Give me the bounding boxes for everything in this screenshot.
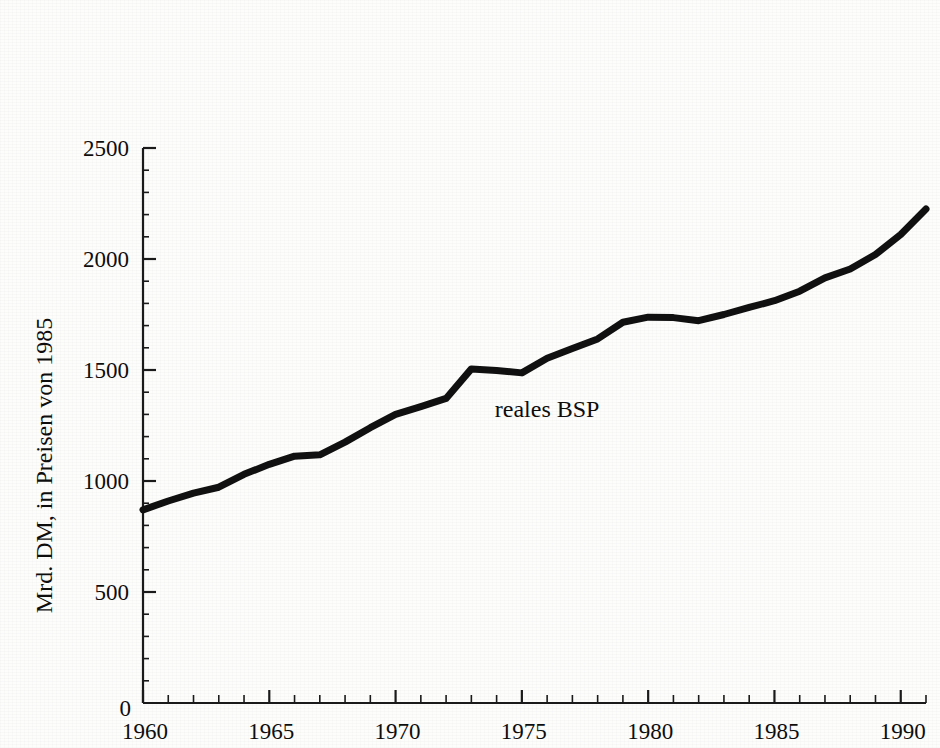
data-series-group <box>143 209 926 510</box>
x-axis-tick-label: 1975 <box>501 719 547 744</box>
x-axis: 1960196519701975198019851990 <box>122 690 926 744</box>
y-axis-origin-label: 0 <box>120 696 132 721</box>
x-axis-tick-label: 1980 <box>627 719 673 744</box>
y-axis: 50010001500200025000 <box>83 136 156 721</box>
y-axis-tick-label: 2000 <box>83 247 129 272</box>
y-axis-tick-label: 1000 <box>83 469 129 494</box>
data-line-0 <box>143 209 926 510</box>
series-annotation: reales BSP <box>495 396 600 422</box>
line-chart: 50010001500200025000 1960196519701975198… <box>0 0 940 748</box>
y-axis-tick-label: 1500 <box>83 358 129 383</box>
x-axis-tick-label: 1970 <box>375 719 421 744</box>
x-axis-tick-label: 1990 <box>880 719 926 744</box>
x-axis-tick-label: 1985 <box>753 719 799 744</box>
x-axis-tick-label: 1965 <box>248 719 294 744</box>
y-axis-tick-label: 2500 <box>83 136 129 161</box>
chart-figure: 50010001500200025000 1960196519701975198… <box>0 0 940 748</box>
y-axis-title: Mrd. DM, in Preisen von 1985 <box>31 318 57 613</box>
y-axis-tick-label: 500 <box>95 580 130 605</box>
x-axis-tick-label: 1960 <box>122 719 168 744</box>
